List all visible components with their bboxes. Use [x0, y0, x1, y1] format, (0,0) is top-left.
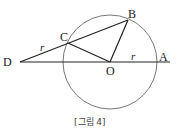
label-r-DC: r [40, 41, 45, 53]
line-DB [20, 20, 128, 62]
segment-CO [68, 43, 110, 62]
label-C: C [60, 30, 68, 44]
label-B: B [128, 7, 136, 21]
label-r-OA: r [131, 50, 136, 62]
label-A: A [159, 50, 168, 64]
label-D: D [3, 55, 12, 69]
figure-caption: [그림 4] [74, 116, 106, 127]
geometry-diagram: D C B O A r r [그림 4] [0, 0, 181, 138]
label-O: O [106, 64, 115, 78]
